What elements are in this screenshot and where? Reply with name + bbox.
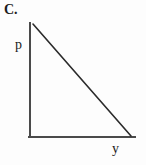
demand-line (33, 24, 131, 136)
y-axis-label: p (15, 37, 22, 53)
x-axis-label: y (112, 141, 119, 157)
panel-letter-label: C. (4, 2, 18, 18)
figure-panel: C. p y (0, 0, 146, 165)
plot-area (0, 0, 146, 165)
horizontal-axis (28, 136, 136, 138)
vertical-axis (29, 22, 31, 138)
